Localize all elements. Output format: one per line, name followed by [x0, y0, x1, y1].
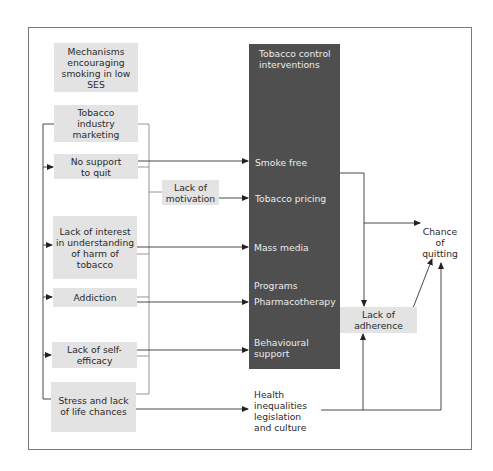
health-inequalities-label: Health inequalities legislation and cult… [254, 389, 307, 433]
mechanisms-header: Mechanisms encouraging smoking in low SE… [54, 43, 138, 92]
intervention-smoke-free: Smoke free [255, 157, 307, 168]
intervention-behavioural-support: Behavioural support [254, 337, 309, 359]
lack-of-adherence-box: Lack of adherence [340, 307, 417, 333]
interventions-panel [249, 44, 340, 369]
chance-of-quitting-label: Chance of quitting [420, 226, 460, 259]
intervention-programs: Programs [254, 280, 298, 291]
interventions-header: Tobacco control interventions [259, 48, 331, 70]
mechanism-lack-of-self-efficacy: Lack of self- efficacy [52, 342, 137, 368]
intervention-mass-media: Mass media [254, 242, 309, 253]
mechanism-lack-of-interest: Lack of interest in understanding of har… [53, 216, 137, 279]
intervention-tobacco-pricing: Tobacco pricing [255, 193, 326, 204]
mechanism-stress: Stress and lack of life chances [51, 382, 136, 432]
mechanism-tobacco-industry-marketing: Tobacco industry marketing [54, 105, 138, 142]
mechanism-addiction: Addiction [53, 288, 137, 307]
mechanism-no-support-to-quit: No support to quit [54, 154, 138, 179]
lack-of-motivation-box: Lack of motivation [162, 180, 219, 205]
intervention-pharmacotherapy: Pharmacotherapy [254, 296, 336, 307]
